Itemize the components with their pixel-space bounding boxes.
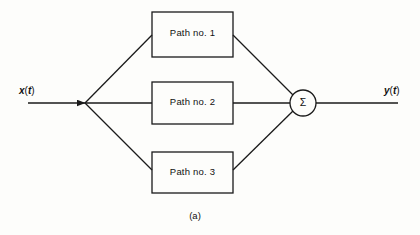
path-3-to-summer-line [233, 110, 294, 170]
branch-to-path-3-line [85, 103, 152, 170]
path-1-to-summer-line [233, 35, 294, 96]
figure-caption: (a) [0, 210, 390, 221]
output-paren-close: ) [396, 85, 399, 96]
input-signal-label: x(t) [19, 85, 35, 96]
block-diagram-figure: x(t) Path no. 1 Path no. 2 Path no. 3 Σ … [0, 0, 420, 235]
output-signal-label: y(t) [384, 85, 400, 96]
summation-sigma-label: Σ [290, 96, 316, 108]
input-paren-close: ) [31, 85, 34, 96]
path-1-label: Path no. 1 [152, 27, 233, 38]
path-3-label: Path no. 3 [152, 166, 233, 177]
branch-to-path-1-line [85, 35, 152, 103]
path-2-label: Path no. 2 [152, 96, 233, 107]
